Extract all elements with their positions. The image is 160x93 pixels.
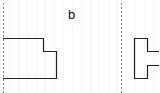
technical-drawing	[0, 0, 159, 93]
side-view-outline	[135, 39, 160, 79]
front-view-outline	[3, 39, 57, 79]
